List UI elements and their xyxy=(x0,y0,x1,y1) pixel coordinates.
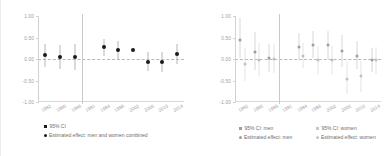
legend-item-effect-women: Estimated effect: women xyxy=(316,133,389,142)
x-tick-label: 1998 xyxy=(311,103,323,113)
x-tick-label: 1982 xyxy=(238,103,250,113)
x-tick-label: 2010 xyxy=(157,103,169,113)
legend-label-ci-women: 95% CI: women xyxy=(321,124,356,133)
y-tick-label: 0.50 xyxy=(221,35,231,40)
legend-item-ci: 95% CI xyxy=(44,122,148,131)
square-marker-icon xyxy=(239,127,242,130)
data-point xyxy=(272,57,275,60)
chart-panel-by-sex: 1.000.500.00-0.50-1.00 19821985198819911… xyxy=(195,0,391,156)
period-divider-left xyxy=(82,14,83,104)
legend-item-effect-men: Estimated effect: men xyxy=(239,133,312,142)
figure-left-edge xyxy=(0,0,1,156)
circle-marker-icon xyxy=(239,136,242,139)
x-tick-label: 1985 xyxy=(55,103,67,113)
data-point xyxy=(297,46,300,49)
data-point xyxy=(268,57,271,60)
x-tick-labels-right: 1982198519881991199419982002200620102014 xyxy=(235,102,381,120)
data-point xyxy=(326,44,329,47)
legend-item-ci-women: 95% CI: women xyxy=(316,124,389,133)
x-tick-labels-left: 1982198519881991199419982002200620102014 xyxy=(38,102,184,120)
data-point xyxy=(374,59,377,62)
legend-item-ci-men: 95% CI: men xyxy=(239,124,312,133)
x-tick-label: 1994 xyxy=(296,103,308,113)
data-point xyxy=(301,54,304,57)
legend-right: 95% CI: men 95% CI: women Estimated effe… xyxy=(239,124,389,142)
data-point xyxy=(43,53,47,57)
data-point xyxy=(58,55,62,59)
legend-left: 95% CI Estimated effect: men and women c… xyxy=(44,122,148,140)
x-tick-label: 2014 xyxy=(369,103,381,113)
data-point xyxy=(253,51,256,54)
legend-label-ci: 95% CI xyxy=(49,122,65,131)
x-tick-label: 2006 xyxy=(340,103,352,113)
data-point xyxy=(316,58,319,61)
data-point xyxy=(355,54,358,57)
y-tick-mark xyxy=(36,16,39,17)
data-point xyxy=(146,60,150,64)
y-tick-label: 1.00 xyxy=(24,14,34,19)
data-point xyxy=(341,49,344,52)
y-tick-mark xyxy=(36,59,39,60)
y-tick-mark xyxy=(233,59,236,60)
circle-marker-icon xyxy=(316,136,319,139)
data-point xyxy=(243,63,246,66)
x-tick-label: 2006 xyxy=(143,103,155,113)
data-point xyxy=(73,55,77,59)
y-tick-label: 0.00 xyxy=(221,57,231,62)
data-point xyxy=(239,39,242,42)
y-tick-label: 1.00 xyxy=(221,14,231,19)
x-tick-label: 1985 xyxy=(252,103,264,113)
plot-area-left: 1.000.500.00-0.50-1.00 19821985198819911… xyxy=(38,16,184,102)
data-point xyxy=(131,48,135,52)
figure-container: 1.000.500.00-0.50-1.00 19821985198819911… xyxy=(0,0,391,156)
y-tick-mark xyxy=(233,16,236,17)
data-point xyxy=(360,75,363,78)
x-tick-label: 2014 xyxy=(172,103,184,113)
x-tick-label: 2002 xyxy=(128,103,140,113)
plot-area-right: 1.000.500.00-0.50-1.00 19821985198819911… xyxy=(235,16,381,102)
data-point xyxy=(258,58,261,61)
data-point xyxy=(312,43,315,46)
y-tick-label: 0.00 xyxy=(24,57,34,62)
data-point xyxy=(116,48,120,52)
square-marker-icon xyxy=(44,125,47,128)
y-tick-label: -0.50 xyxy=(220,78,231,83)
x-tick-label: 1991 xyxy=(281,103,293,113)
legend-label-effect: Estimated effect: men and women combined xyxy=(49,131,148,140)
y-tick-label: 0.50 xyxy=(24,35,34,40)
x-tick-label: 2010 xyxy=(354,103,366,113)
y-tick-mark xyxy=(233,81,236,82)
y-tick-label: -0.50 xyxy=(23,78,34,83)
x-tick-label: 1982 xyxy=(41,103,53,113)
legend-label-effect-women: Estimated effect: women xyxy=(321,133,376,142)
x-tick-label: 2002 xyxy=(325,103,337,113)
data-point xyxy=(175,52,179,56)
y-tick-mark xyxy=(36,81,39,82)
period-divider-right xyxy=(279,14,280,104)
x-tick-label: 1988 xyxy=(267,103,279,113)
data-point xyxy=(160,60,164,64)
circle-marker-icon xyxy=(44,134,47,137)
data-point xyxy=(345,77,348,80)
legend-label-effect-men: Estimated effect: men xyxy=(244,133,292,142)
x-tick-label: 1991 xyxy=(84,103,96,113)
x-tick-label: 1988 xyxy=(70,103,82,113)
y-tick-label: -1.00 xyxy=(23,100,34,105)
y-tick-mark xyxy=(233,38,236,39)
x-tick-label: 1998 xyxy=(114,103,126,113)
legend-item-effect: Estimated effect: men and women combined xyxy=(44,131,148,140)
data-point xyxy=(331,59,334,62)
data-point xyxy=(102,45,106,49)
chart-panel-combined: 1.000.500.00-0.50-1.00 19821985198819911… xyxy=(0,0,195,156)
legend-label-ci-men: 95% CI: men xyxy=(244,124,273,133)
data-point xyxy=(370,58,373,61)
y-tick-label: -1.00 xyxy=(220,100,231,105)
y-tick-mark xyxy=(36,38,39,39)
square-marker-icon xyxy=(316,127,319,130)
x-tick-label: 1994 xyxy=(99,103,111,113)
